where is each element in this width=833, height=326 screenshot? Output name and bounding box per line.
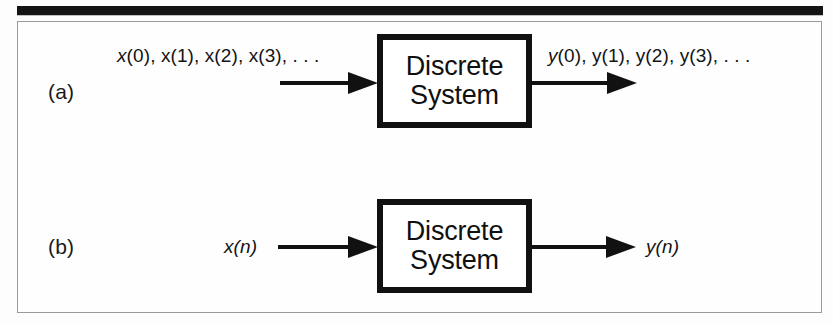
input-signal-b: x(n) xyxy=(224,236,257,258)
discrete-system-block-a: Discrete System xyxy=(377,34,532,128)
input-arrow-b xyxy=(278,236,378,258)
arrow-shaft xyxy=(531,245,606,249)
input-signal-terms-a: (0), x(1), x(2), x(3), . . . xyxy=(127,45,320,66)
output-signal-terms-b: (n) xyxy=(656,236,680,257)
block-title-line-1: Discrete xyxy=(406,217,503,246)
arrow-head-icon xyxy=(348,72,378,94)
arrow-head-icon xyxy=(348,236,378,258)
input-signal-variable-a: x xyxy=(117,45,127,66)
output-signal-terms-a: (0), y(1), y(2), y(3), . . . xyxy=(558,45,751,66)
input-signal-variable-b: x xyxy=(224,236,234,257)
output-signal-variable-a: y xyxy=(548,45,558,66)
arrow-shaft xyxy=(278,245,348,249)
part-label-b: (b) xyxy=(48,235,74,259)
arrow-head-icon xyxy=(607,72,637,94)
arrow-shaft xyxy=(280,81,348,85)
output-arrow-a xyxy=(531,72,637,94)
part-label-a: (a) xyxy=(48,80,74,104)
discrete-system-block-b: Discrete System xyxy=(377,199,532,293)
output-arrow-b xyxy=(531,236,636,258)
block-title-line-2: System xyxy=(410,246,499,275)
output-signal-variable-b: y xyxy=(646,236,656,257)
block-title-line-1: Discrete xyxy=(406,52,503,81)
top-rule-divider xyxy=(17,6,823,15)
input-arrow-a xyxy=(280,72,378,94)
arrow-head-icon xyxy=(606,236,636,258)
block-title-line-2: System xyxy=(410,81,499,110)
input-signal-sequence-a: x(0), x(1), x(2), x(3), . . . xyxy=(117,45,319,67)
arrow-shaft xyxy=(531,81,607,85)
figure-canvas: (a) x(0), x(1), x(2), x(3), . . . Discre… xyxy=(0,0,833,326)
output-signal-b: y(n) xyxy=(646,236,679,258)
input-signal-terms-b: (n) xyxy=(234,236,258,257)
output-signal-sequence-a: y(0), y(1), y(2), y(3), . . . xyxy=(548,45,750,67)
